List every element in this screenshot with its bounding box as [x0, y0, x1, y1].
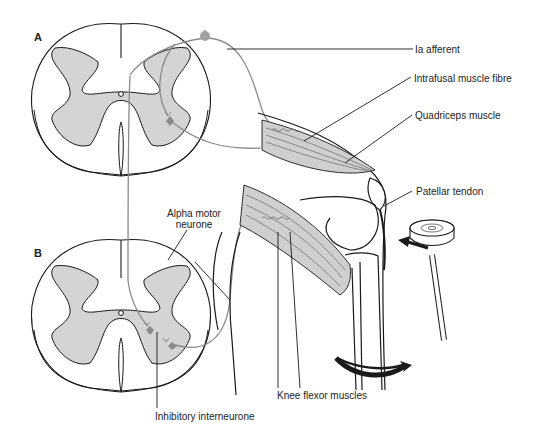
- label-alpha-motor-neurone-line1: Alpha motor: [160, 208, 228, 219]
- spinal-cord-section-b: [32, 240, 211, 392]
- panel-label-a: A: [34, 31, 42, 43]
- spinal-cord-section-a: [32, 24, 211, 176]
- reflex-hammer-icon: [410, 220, 454, 340]
- diagram-canvas: [0, 0, 536, 445]
- label-patellar-tendon: Patellar tendon: [416, 186, 483, 197]
- label-intrafusal-muscle-fibre: Intrafusal muscle fibre: [414, 73, 512, 84]
- label-alpha-motor-neurone-line2: neurone: [160, 219, 228, 230]
- label-ia-afferent: Ia afferent: [415, 44, 460, 55]
- label-alpha-motor-neurone: Alpha motor neurone: [160, 208, 228, 230]
- label-knee-flexor-muscles: Knee flexor muscles: [277, 390, 367, 401]
- label-quadriceps-muscle: Quadriceps muscle: [415, 110, 501, 121]
- label-inhibitory-interneurone: Inhibitory interneurone: [155, 411, 255, 422]
- leg-illustration: [213, 113, 386, 395]
- panel-label-b: B: [34, 247, 42, 259]
- knee-flexor-muscles: [240, 185, 351, 295]
- dorsal-root-ganglion: [200, 31, 210, 41]
- curved-right-arrow-icon: [336, 358, 412, 375]
